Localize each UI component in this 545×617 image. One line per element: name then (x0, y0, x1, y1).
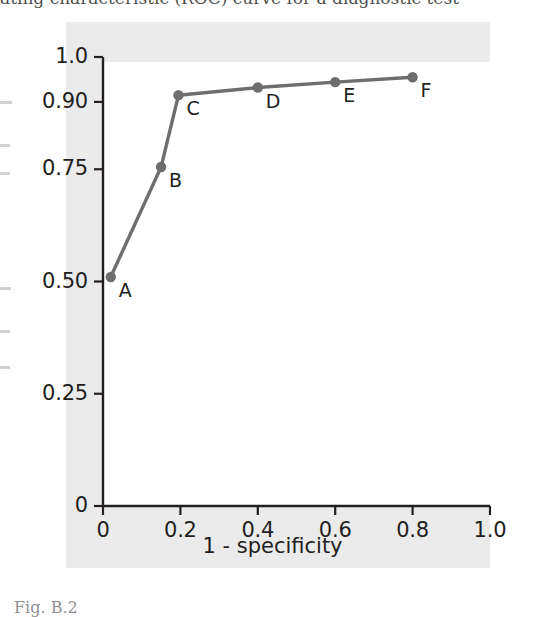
y-tick-label: 0.50 (0, 271, 88, 292)
data-point-marker[interactable] (173, 90, 183, 100)
data-point-marker[interactable] (106, 272, 116, 282)
y-tick-label: 0.75 (0, 158, 88, 179)
y-tick-label: 1.0 (0, 46, 88, 67)
figure-caption: Fig. B.2 (14, 598, 78, 617)
y-tick-label: 0.90 (0, 91, 88, 112)
roc-curve-line (111, 77, 413, 277)
data-point-label-c: C (186, 99, 199, 118)
y-tick-label: 0 (0, 495, 88, 516)
tick-mark-layer (94, 57, 490, 515)
data-point-label-a: A (119, 281, 132, 300)
data-point-marker[interactable] (407, 72, 417, 82)
data-point-marker[interactable] (330, 77, 340, 87)
data-point-label-d: D (266, 92, 281, 111)
data-point-label-b: B (169, 171, 182, 190)
data-point-marker[interactable] (156, 162, 166, 172)
data-point-marker[interactable] (253, 82, 263, 92)
axis-layer (103, 57, 490, 506)
x-axis-title: 1 - specificity (0, 534, 545, 558)
y-tick-label: 0.25 (0, 383, 88, 404)
data-point-label-f: F (421, 81, 432, 100)
data-series-layer (106, 72, 418, 282)
data-point-label-e: E (343, 86, 355, 105)
